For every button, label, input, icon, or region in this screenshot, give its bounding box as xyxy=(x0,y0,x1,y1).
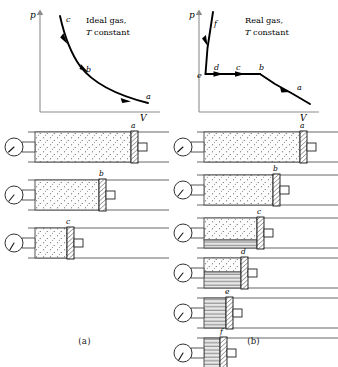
gas-region xyxy=(204,218,257,240)
gauge-neck xyxy=(191,268,204,278)
cylinder-label-d: d xyxy=(241,247,246,256)
cylinder-label-a: a xyxy=(300,121,304,130)
point-label-e-real: e xyxy=(197,71,202,80)
cylinder-label-b: b xyxy=(99,169,104,178)
gauge-neck xyxy=(22,190,35,200)
piston-rod xyxy=(280,186,289,194)
cylinder-b-ideal: b xyxy=(5,169,169,211)
piston-rod xyxy=(138,143,147,151)
cylinder-label-c: c xyxy=(257,207,262,216)
gas-region xyxy=(204,258,241,272)
y-axis-label-real: p xyxy=(189,10,195,20)
annotation-ideal-gas-line2: T constant xyxy=(86,27,131,37)
pv-diagram-ideal-gas: p V a b c Ideal gas, T constant xyxy=(0,0,169,122)
compression-arrow-1 xyxy=(121,98,131,103)
y-axis-label-ideal: p xyxy=(30,10,36,20)
compression-arrow-1 xyxy=(280,87,291,92)
piston-rod xyxy=(74,239,83,247)
point-label-b-ideal: b xyxy=(86,65,91,74)
gas-region xyxy=(35,132,131,162)
cylinder-d-real: d xyxy=(174,247,338,289)
gauge-neck xyxy=(22,238,35,248)
piston-rod xyxy=(106,191,115,199)
cylinder-series-ideal: a b xyxy=(0,122,169,337)
gauge-neck xyxy=(22,142,35,152)
cylinder-c-real: c xyxy=(174,207,338,249)
point-label-f-real: f xyxy=(213,19,219,28)
cylinder-label-a: a xyxy=(131,121,135,130)
piston-rod xyxy=(233,309,242,317)
annotation-real-gas-line1: Real gas, xyxy=(245,15,283,25)
point-label-a-real: a xyxy=(297,83,302,92)
piston[interactable] xyxy=(273,174,280,206)
panel-b-caption: (b) xyxy=(169,336,338,346)
physics-figure: p V a b c Ideal gas, T constant xyxy=(0,0,338,367)
gauge-neck xyxy=(191,308,204,318)
piston[interactable] xyxy=(257,217,264,249)
gauge-neck xyxy=(191,185,204,195)
point-label-c-ideal: c xyxy=(66,15,71,24)
cylinder-a-real: a xyxy=(174,121,338,163)
compression-arrow-4 xyxy=(202,35,208,46)
liquid-region xyxy=(204,272,241,288)
panel-b: p V a b c d xyxy=(169,0,338,367)
compression-arrow-2 xyxy=(235,71,245,76)
point-label-d-real: d xyxy=(214,63,219,72)
piston[interactable] xyxy=(226,297,233,329)
gas-region xyxy=(204,175,273,205)
annotation-ideal-gas-line1: Ideal gas, xyxy=(86,15,126,25)
cylinder-b-real: b xyxy=(174,164,338,206)
compression-arrow-3 xyxy=(214,71,224,76)
cylinder-label-e: e xyxy=(225,287,230,296)
point-label-a-ideal: a xyxy=(146,92,151,101)
piston[interactable] xyxy=(300,131,307,163)
annotation-ideal-temp-text: constant xyxy=(91,27,130,37)
pv-diagram-real-gas: p V a b c d xyxy=(169,0,338,122)
cylinder-a-ideal: a xyxy=(5,121,169,163)
gas-region xyxy=(35,180,99,210)
piston-rod xyxy=(307,143,316,151)
liquid-region xyxy=(204,240,257,248)
piston[interactable] xyxy=(99,179,106,211)
gauge-neck xyxy=(191,228,204,238)
gas-region xyxy=(35,228,67,258)
gas-region xyxy=(204,132,300,162)
cylinder-label-b: b xyxy=(273,164,278,173)
gauge-neck xyxy=(191,348,204,358)
piston[interactable] xyxy=(131,131,138,163)
piston-rod xyxy=(227,349,236,357)
cylinder-f-real: f xyxy=(174,327,338,367)
piston[interactable] xyxy=(241,257,248,289)
cylinder-series-real: a b xyxy=(169,122,338,337)
panel-a-caption: (a) xyxy=(0,336,169,346)
cylinder-c-ideal: c xyxy=(5,217,169,259)
cylinder-e-real: e xyxy=(174,287,338,329)
gauge-neck xyxy=(191,142,204,152)
piston-rod xyxy=(264,229,273,237)
piston[interactable] xyxy=(67,227,74,259)
panel-a: p V a b c Ideal gas, T constant xyxy=(0,0,169,367)
gas-branch-real xyxy=(260,74,310,104)
cylinder-label-c: c xyxy=(66,217,71,226)
annotation-real-gas-line2: T constant xyxy=(245,27,290,37)
liquid-region xyxy=(204,298,226,328)
annotation-real-temp-text: constant xyxy=(250,27,289,37)
piston-rod xyxy=(248,269,257,277)
point-label-c-real: c xyxy=(236,63,241,72)
point-label-b-real: b xyxy=(259,63,264,72)
